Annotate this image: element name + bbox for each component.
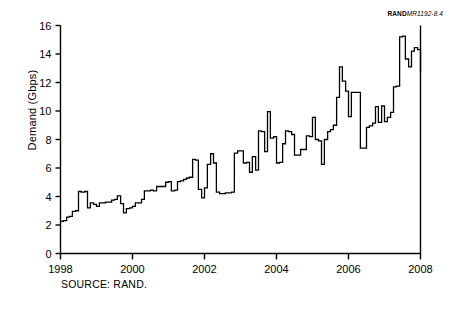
y-tick-label: 16 (39, 20, 51, 32)
y-axis-ticks (56, 26, 61, 254)
y-tick-label: 14 (39, 48, 51, 60)
y-tick-label: 12 (39, 77, 51, 89)
demand-line-chart: 0246810121416 199820002002200420062008 (0, 0, 451, 318)
series-line-demand (61, 36, 421, 221)
x-tick-label: 2004 (264, 263, 288, 275)
x-axis-tick-labels: 199820002002200420062008 (48, 263, 432, 275)
y-axis-tick-labels: 0246810121416 (39, 20, 51, 260)
x-tick-label: 2008 (408, 263, 432, 275)
source-note: SOURCE: RAND. (61, 278, 147, 290)
plot-area-wrapper: 0246810121416 199820002002200420062008 (0, 0, 451, 318)
y-tick-label: 4 (45, 191, 51, 203)
x-tick-label: 2002 (192, 263, 216, 275)
y-axis-title: Demand (Gbps) (26, 50, 38, 170)
y-tick-label: 2 (45, 219, 51, 231)
data-series-group (61, 36, 421, 221)
y-tick-label: 0 (45, 248, 51, 260)
y-tick-label: 10 (39, 105, 51, 117)
x-axis-ticks (61, 254, 421, 260)
y-tick-label: 8 (45, 134, 51, 146)
x-tick-label: 1998 (48, 263, 72, 275)
figure-container: RANDMR1192-8.4 0246810121416 19982000200… (0, 0, 451, 318)
x-tick-label: 2000 (120, 263, 144, 275)
y-tick-label: 6 (45, 162, 51, 174)
x-tick-label: 2006 (336, 263, 360, 275)
